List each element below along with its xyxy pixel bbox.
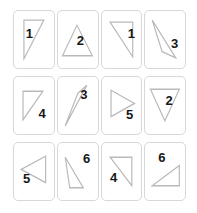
triangle-shape-right-triangle-hypotenuse-down-right [102,11,142,68]
card-number-label: 5 [126,107,133,120]
triangle-card[interactable]: 1 [101,10,143,69]
triangle-card[interactable]: 1 [13,10,55,69]
triangle-shape-triangle-apex-top-left [58,143,98,200]
card-number-label: 6 [83,152,90,165]
card-number-label: 3 [80,87,87,100]
card-number-label: 6 [158,150,165,163]
card-number-label: 4 [38,106,45,119]
card-number-label: 2 [166,93,173,106]
triangle-card[interactable]: 2 [144,76,186,135]
triangle-card[interactable]: 5 [13,142,55,201]
triangle-shape-narrow-triangle-pointing-down-left [58,77,98,134]
card-number-label: 2 [77,34,84,47]
triangle-shape-right-triangle-hypotenuse-down-left [14,77,54,134]
triangle-card[interactable]: 2 [57,10,99,69]
card-grid: 121343525646 [0,0,197,213]
card-number-label: 4 [110,171,117,184]
triangle-shape-narrow-triangle-pointing-down-right [145,11,185,68]
triangle-card[interactable]: 4 [13,76,55,135]
triangle-card[interactable]: 3 [57,76,99,135]
triangle-card[interactable]: 4 [101,142,143,201]
triangle-card[interactable]: 6 [57,142,99,201]
triangle-card[interactable]: 6 [144,142,186,201]
card-number-label: 5 [23,171,30,184]
card-number-label: 1 [26,26,33,39]
card-number-label: 3 [171,36,178,49]
triangle-shape-right-triangle-hypotenuse-down-left [14,11,54,68]
triangle-shape-triangle-pointing-right [102,77,142,134]
card-number-label: 1 [128,27,135,40]
triangle-card[interactable]: 5 [101,76,143,135]
triangle-shape-right-triangle-hypotenuse-down-right [102,143,142,200]
triangle-shape-triangle-pointing-left [14,143,54,200]
triangle-card[interactable]: 3 [144,10,186,69]
